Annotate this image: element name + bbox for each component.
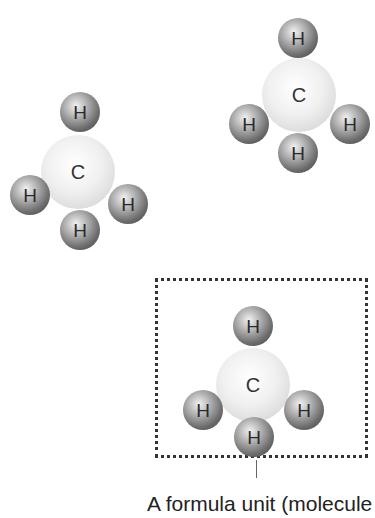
hydrogen-atom-top: H	[60, 92, 100, 132]
hydrogen-atom-top: H	[233, 306, 273, 346]
hydrogen-atom-bottom: H	[234, 417, 274, 457]
hydrogen-atom-right: H	[108, 184, 148, 224]
atom-label: H	[23, 186, 37, 205]
leader-line	[256, 460, 257, 478]
hydrogen-atom-left: H	[229, 104, 269, 144]
atom-label: H	[246, 317, 260, 336]
atom-label: C	[246, 375, 260, 395]
atom-label: H	[121, 195, 135, 214]
atom-label: H	[73, 221, 87, 240]
caption: A formula unit (molecule	[147, 492, 372, 516]
atom-label: C	[71, 162, 85, 182]
carbon-atom: C	[41, 135, 115, 209]
carbon-atom: C	[216, 348, 290, 422]
atom-label: H	[242, 115, 256, 134]
hydrogen-atom-right: H	[284, 390, 324, 430]
hydrogen-atom-left: H	[183, 390, 223, 430]
atom-label: H	[291, 29, 305, 48]
atom-label: C	[292, 85, 306, 105]
atom-label: H	[291, 144, 305, 163]
hydrogen-atom-left: H	[10, 175, 50, 215]
atom-label: H	[73, 103, 87, 122]
atom-label: H	[297, 401, 311, 420]
atom-label: H	[343, 115, 357, 134]
carbon-atom: C	[262, 58, 336, 132]
hydrogen-atom-bottom: H	[278, 133, 318, 173]
hydrogen-atom-right: H	[330, 104, 370, 144]
hydrogen-atom-top: H	[278, 18, 318, 58]
atom-label: H	[247, 428, 261, 447]
hydrogen-atom-bottom: H	[60, 210, 100, 250]
atom-label: H	[196, 401, 210, 420]
